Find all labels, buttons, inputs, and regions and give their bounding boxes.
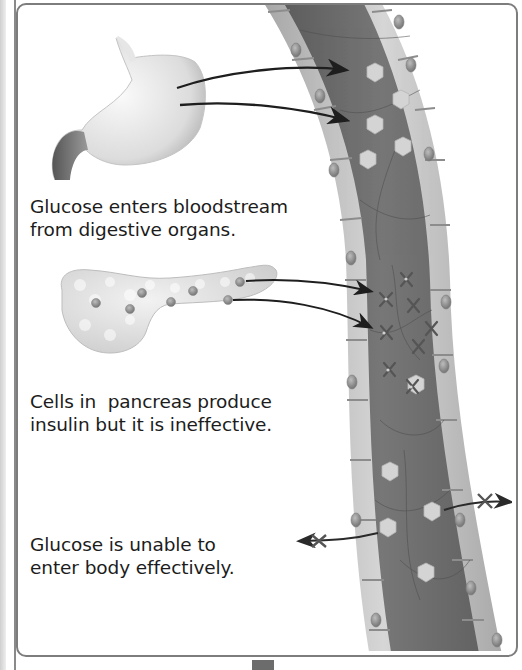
caption-digestive-line2: from digestive organs. [30, 218, 288, 241]
caption-digestive: Glucose enters bloodstream from digestiv… [30, 195, 288, 241]
stomach-illustration [52, 36, 205, 180]
caption-uptake-line1: Glucose is unable to [30, 533, 235, 556]
pancreas-illustration [61, 265, 277, 353]
caption-pancreas-line1: Cells in pancreas produce [30, 390, 272, 413]
caption-uptake: Glucose is unable to enter body effectiv… [30, 533, 235, 579]
caption-digestive-line1: Glucose enters bloodstream [30, 195, 288, 218]
caption-pancreas-line2: insulin but it is ineffective. [30, 413, 272, 436]
caption-uptake-line2: enter body effectively. [30, 556, 235, 579]
caption-pancreas: Cells in pancreas produce insulin but it… [30, 390, 272, 436]
